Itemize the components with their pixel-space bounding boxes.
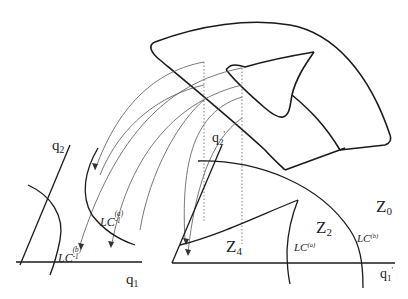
lc-minus1-b-label: LC(b)-1 (58, 250, 87, 264)
folded-surface (151, 22, 391, 170)
right-q2-label: q2' (212, 131, 225, 147)
left-q2-axis (20, 145, 70, 265)
curve-lcb (198, 161, 363, 288)
lc-a-label: LC(a) (294, 242, 315, 253)
left-q1-label: q1 (126, 272, 138, 289)
zone-z4-label: Z4 (226, 238, 242, 257)
right-q1-label: q1' (380, 267, 393, 283)
lc-minus1-a-label: LC(a)-1 (100, 214, 129, 228)
curve-lc-1a (85, 148, 135, 245)
zone-z0-label: Z0 (376, 198, 392, 217)
arrow-heads (78, 163, 191, 256)
left-q2-label: q2 (52, 138, 64, 155)
right-q2-axis (172, 145, 222, 263)
projection-lines (204, 62, 242, 244)
right-plane (172, 145, 395, 288)
zone-z2-label: Z2 (316, 219, 332, 238)
lc-b-label: LC(b) (357, 233, 378, 244)
